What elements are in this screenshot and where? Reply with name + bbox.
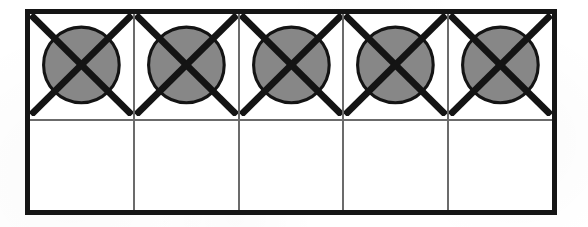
grid-cell-r1c2[interactable] [133,14,238,119]
grid-cell-r1c1[interactable] [30,14,133,119]
grid-row-2 [30,119,552,210]
grid-cell-r2c5[interactable] [447,119,552,210]
grid-cell-r2c4[interactable] [342,119,447,210]
crossed-counter-icon [135,14,238,116]
figure-canvas: Ten frame with five crossed-out counters [0,0,588,227]
crossed-counter-icon [344,14,447,116]
crossed-counter-icon [449,14,552,116]
grid-cell-r1c5[interactable] [447,14,552,119]
grid-cell-r1c4[interactable] [342,14,447,119]
grid-cell-r1c3[interactable] [238,14,343,119]
grid-row-1 [30,14,552,119]
crossed-counter-icon [30,14,133,116]
ten-frame-grid [25,9,557,215]
ten-frame-grid-inner [30,14,552,210]
grid-cell-r2c1[interactable] [30,119,133,210]
grid-cell-r2c2[interactable] [133,119,238,210]
grid-cell-r2c3[interactable] [238,119,343,210]
crossed-counter-icon [240,14,343,116]
